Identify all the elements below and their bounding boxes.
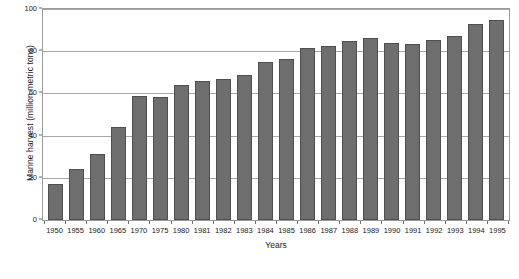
bar-slot [297,9,318,220]
x-tick-mark [339,221,340,224]
bar [447,36,462,220]
x-tick-mark [65,221,66,224]
bar [132,96,147,220]
y-tick-mark [39,134,42,135]
bar [48,184,63,220]
x-tick-label: 1950 [46,226,63,235]
bar [321,46,336,220]
x-tick-label: 1965 [109,226,126,235]
bar-slot [360,9,381,220]
x-tick-mark [171,221,172,224]
x-tick-mark [213,221,214,224]
x-tick-mark [255,221,256,224]
bar-slot [45,9,66,220]
bar [111,127,126,220]
x-tick-label: 1989 [363,226,380,235]
y-tick-mark [39,50,42,51]
x-tick-label: 1992 [426,226,443,235]
x-tick-mark [403,221,404,224]
x-tick-mark [445,221,446,224]
bar-slot [318,9,339,220]
x-tick-label: 1970 [131,226,148,235]
bar [426,40,441,220]
bar [489,20,504,220]
bar-slot [339,9,360,220]
bar-slot [423,9,444,220]
bar-chart-figure: Marine harvest (million metric tons) 020… [0,0,519,279]
x-tick-mark [424,221,425,224]
bar [237,75,252,220]
bar [153,97,168,220]
x-tick-mark [44,221,45,224]
bar [468,24,483,220]
x-tick-mark [149,221,150,224]
x-tick-mark [381,221,382,224]
bar [384,43,399,220]
y-tick-mark [39,219,42,220]
x-tick-label: 1980 [173,226,190,235]
x-tick-label: 1987 [320,226,337,235]
x-tick-label: 1990 [384,226,401,235]
x-tick-label: 1955 [67,226,84,235]
bar [90,154,105,220]
x-tick-label: 1993 [447,226,464,235]
x-tick-label: 1986 [299,226,316,235]
y-tick-label: 20 [29,172,37,181]
plot-area [42,8,510,221]
bar-slot [129,9,150,220]
x-tick-label: 1988 [341,226,358,235]
y-tick-label: 40 [29,130,37,139]
x-tick-label: 1984 [257,226,274,235]
bar-slot [381,9,402,220]
x-tick-mark [318,221,319,224]
x-tick-mark [466,221,467,224]
y-tick-label: 80 [29,46,37,55]
bar [405,44,420,220]
x-tick-label: 1975 [152,226,169,235]
bar [279,59,294,220]
bar [300,48,315,220]
y-tick-label: 60 [29,88,37,97]
bar-slot [87,9,108,220]
bar-slot [402,9,423,220]
bar [174,85,189,220]
x-tick-label: 1991 [405,226,422,235]
bar-slot [486,9,507,220]
x-tick-mark [86,221,87,224]
y-axis-title: Marine harvest (million metric tons) [25,13,35,213]
bar-slot [150,9,171,220]
x-tick-label: 1981 [194,226,211,235]
bar-slot [234,9,255,220]
bar [69,169,84,220]
y-tick-mark [39,176,42,177]
bar-slot [465,9,486,220]
x-tick-mark [508,221,509,224]
x-tick-label: 1960 [88,226,105,235]
y-tick-label: 100 [24,4,37,13]
x-tick-mark [276,221,277,224]
x-tick-mark [234,221,235,224]
x-tick-label: 1982 [215,226,232,235]
x-axis-title: Years [42,240,510,250]
bar-series [43,9,509,220]
x-tick-mark [487,221,488,224]
y-tick-mark [39,92,42,93]
x-tick-mark [128,221,129,224]
bar-slot [108,9,129,220]
x-tick-mark [107,221,108,224]
bar-slot [255,9,276,220]
bar-slot [171,9,192,220]
bar-slot [444,9,465,220]
bar [195,81,210,220]
x-tick-mark [297,221,298,224]
x-tick-label: 1985 [278,226,295,235]
x-tick-mark [360,221,361,224]
x-tick-mark [192,221,193,224]
bar [258,62,273,220]
y-tick-mark [39,8,42,9]
x-tick-label: 1994 [468,226,485,235]
bar [342,41,357,220]
x-tick-label: 1983 [236,226,253,235]
bar [216,79,231,220]
x-tick-label: 1995 [489,226,506,235]
